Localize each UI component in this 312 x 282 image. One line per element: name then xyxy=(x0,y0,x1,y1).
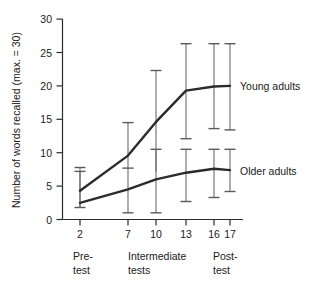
x-tick-label-2: 2 xyxy=(77,228,83,240)
recall-line-chart: Number of words recalled (max. = 30) 0 5… xyxy=(0,0,312,282)
group-label-intermediate-line1: Intermediate xyxy=(128,250,187,262)
x-axis-group-labels: Pre- test Intermediate tests Post- test xyxy=(73,250,238,276)
errorbars-young-adults xyxy=(75,44,236,208)
errorbar xyxy=(123,123,134,169)
group-label-posttest-line1: Post- xyxy=(213,250,238,262)
y-tick-label-15: 15 xyxy=(40,113,52,125)
y-axis-title: Number of words recalled (max. = 30) xyxy=(10,32,22,208)
x-tick-label-17: 17 xyxy=(224,228,236,240)
y-tick-label-5: 5 xyxy=(46,180,52,192)
group-label-posttest-line2: test xyxy=(213,264,230,276)
series-label-older-adults: Older adults xyxy=(240,165,297,177)
y-tick-label-30: 30 xyxy=(40,13,52,25)
series-label-young-adults: Young adults xyxy=(240,80,300,92)
x-tick-label-13: 13 xyxy=(180,228,192,240)
errorbar xyxy=(181,149,192,201)
chart-container: Number of words recalled (max. = 30) 0 5… xyxy=(0,0,312,282)
group-label-pretest-line1: Pre- xyxy=(73,250,93,262)
y-tick-label-10: 10 xyxy=(40,147,52,159)
x-tick-label-16: 16 xyxy=(208,228,220,240)
y-tick-label-20: 20 xyxy=(40,80,52,92)
y-axis-ticks xyxy=(57,19,63,219)
y-tick-label-25: 25 xyxy=(40,47,52,59)
errorbars-older-adults xyxy=(75,149,236,213)
y-axis-tick-labels: 0 5 10 15 20 25 30 xyxy=(40,13,52,225)
errorbar xyxy=(209,149,220,197)
x-axis-tick-labels: 2 7 10 13 16 17 xyxy=(77,228,236,240)
group-label-intermediate-line2: tests xyxy=(128,264,150,276)
x-tick-label-7: 7 xyxy=(125,228,131,240)
y-tick-label-0: 0 xyxy=(46,214,52,226)
x-tick-label-10: 10 xyxy=(150,228,162,240)
x-axis-ticks xyxy=(80,220,230,226)
series-line-young-adults xyxy=(80,86,230,191)
group-label-pretest-line2: test xyxy=(73,264,90,276)
